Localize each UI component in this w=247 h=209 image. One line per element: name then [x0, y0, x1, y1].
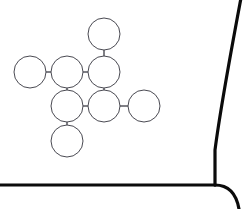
graph-node-n5[interactable] [51, 90, 83, 122]
graph-node-n6[interactable] [88, 90, 120, 122]
panel-border-right-curve [215, 0, 241, 185]
graph-node-n7[interactable] [128, 90, 160, 122]
graph-node-n3[interactable] [51, 56, 83, 88]
graph-node-n4[interactable] [88, 56, 120, 88]
panel-border-layer [0, 0, 247, 209]
graph-node-n8[interactable] [51, 125, 83, 157]
panel-border-corner-curve [215, 185, 239, 209]
graph-node-n1[interactable] [88, 18, 120, 50]
screenshot-root [0, 0, 247, 209]
graph-node-n2[interactable] [14, 56, 46, 88]
